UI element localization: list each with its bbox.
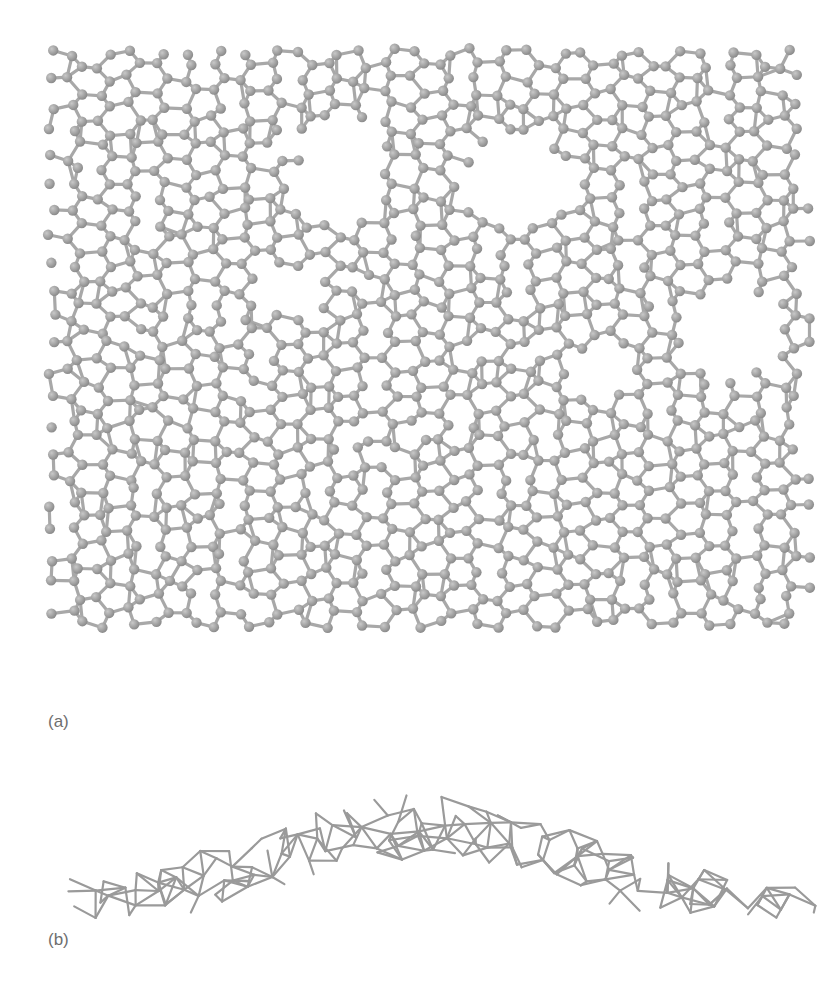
side-bond bbox=[441, 797, 468, 806]
atom bbox=[320, 541, 330, 551]
atom bbox=[725, 619, 735, 629]
atom bbox=[298, 75, 308, 85]
atom bbox=[161, 258, 171, 268]
atom bbox=[639, 176, 649, 186]
atom bbox=[644, 542, 654, 552]
atom bbox=[206, 110, 216, 120]
atom bbox=[776, 509, 786, 519]
atom bbox=[581, 74, 591, 84]
atom bbox=[70, 262, 80, 272]
atom bbox=[750, 415, 760, 425]
atom bbox=[386, 499, 396, 509]
atom bbox=[129, 564, 139, 574]
atom bbox=[434, 408, 444, 418]
atom bbox=[475, 273, 485, 283]
atom bbox=[357, 568, 367, 578]
atom bbox=[305, 111, 315, 121]
atom bbox=[416, 541, 426, 551]
atom bbox=[468, 232, 478, 242]
atom bbox=[674, 72, 684, 82]
atom bbox=[246, 163, 256, 173]
atom bbox=[667, 459, 677, 469]
atom bbox=[183, 209, 193, 219]
atom bbox=[478, 594, 488, 604]
atom bbox=[635, 288, 645, 298]
atom bbox=[496, 489, 506, 499]
atom bbox=[561, 256, 571, 266]
atom bbox=[92, 564, 102, 574]
atom bbox=[148, 249, 158, 259]
atom bbox=[560, 311, 570, 321]
atom bbox=[434, 277, 444, 287]
atom bbox=[360, 462, 370, 472]
atom bbox=[589, 163, 599, 173]
atom bbox=[183, 313, 193, 323]
atom bbox=[390, 581, 400, 591]
atom bbox=[332, 73, 342, 83]
atom bbox=[120, 311, 130, 321]
atom bbox=[352, 309, 362, 319]
atom bbox=[671, 127, 681, 137]
atom bbox=[49, 337, 59, 347]
atom bbox=[62, 336, 72, 346]
atom bbox=[186, 542, 196, 552]
atom bbox=[588, 140, 598, 150]
atom bbox=[215, 528, 225, 538]
atom bbox=[614, 180, 624, 190]
atom bbox=[235, 75, 245, 85]
atom bbox=[158, 311, 168, 321]
side-bond bbox=[424, 838, 447, 850]
atom bbox=[473, 110, 483, 120]
atom bbox=[552, 564, 562, 574]
atom bbox=[91, 592, 101, 602]
atom bbox=[491, 297, 501, 307]
atom bbox=[753, 523, 763, 533]
atom bbox=[77, 218, 87, 228]
atom bbox=[73, 163, 83, 173]
atom bbox=[131, 510, 141, 520]
atom bbox=[125, 363, 135, 373]
atom bbox=[250, 245, 260, 255]
atom bbox=[675, 286, 685, 296]
atom bbox=[234, 448, 244, 458]
atom bbox=[291, 209, 301, 219]
atom bbox=[706, 589, 716, 599]
atom bbox=[47, 556, 57, 566]
atom bbox=[94, 382, 104, 392]
atom bbox=[392, 391, 402, 401]
atom bbox=[218, 362, 228, 372]
atom bbox=[778, 216, 788, 226]
atom bbox=[561, 103, 571, 113]
atom bbox=[493, 431, 503, 441]
atom bbox=[272, 74, 282, 84]
atom bbox=[406, 415, 416, 425]
atom bbox=[670, 230, 680, 240]
side-bond bbox=[362, 816, 388, 828]
atom bbox=[575, 205, 585, 215]
atom bbox=[67, 288, 77, 298]
atom bbox=[633, 527, 643, 537]
atom bbox=[721, 245, 731, 255]
atom bbox=[125, 256, 135, 266]
atom bbox=[105, 470, 115, 480]
atom bbox=[390, 290, 400, 300]
atom bbox=[48, 391, 58, 401]
atom bbox=[216, 575, 226, 585]
atom bbox=[182, 423, 192, 433]
atom bbox=[386, 70, 396, 80]
atom bbox=[720, 192, 730, 202]
atom bbox=[448, 503, 458, 513]
atom bbox=[696, 575, 706, 585]
atom bbox=[380, 169, 390, 179]
atom bbox=[779, 542, 789, 552]
atom bbox=[189, 195, 199, 205]
atom bbox=[558, 395, 568, 405]
atom bbox=[319, 515, 329, 525]
atom bbox=[381, 380, 391, 390]
atom bbox=[182, 155, 192, 165]
atom bbox=[520, 234, 530, 244]
atom bbox=[662, 436, 672, 446]
atom bbox=[634, 343, 644, 353]
atom bbox=[44, 179, 54, 189]
atom bbox=[604, 456, 614, 466]
